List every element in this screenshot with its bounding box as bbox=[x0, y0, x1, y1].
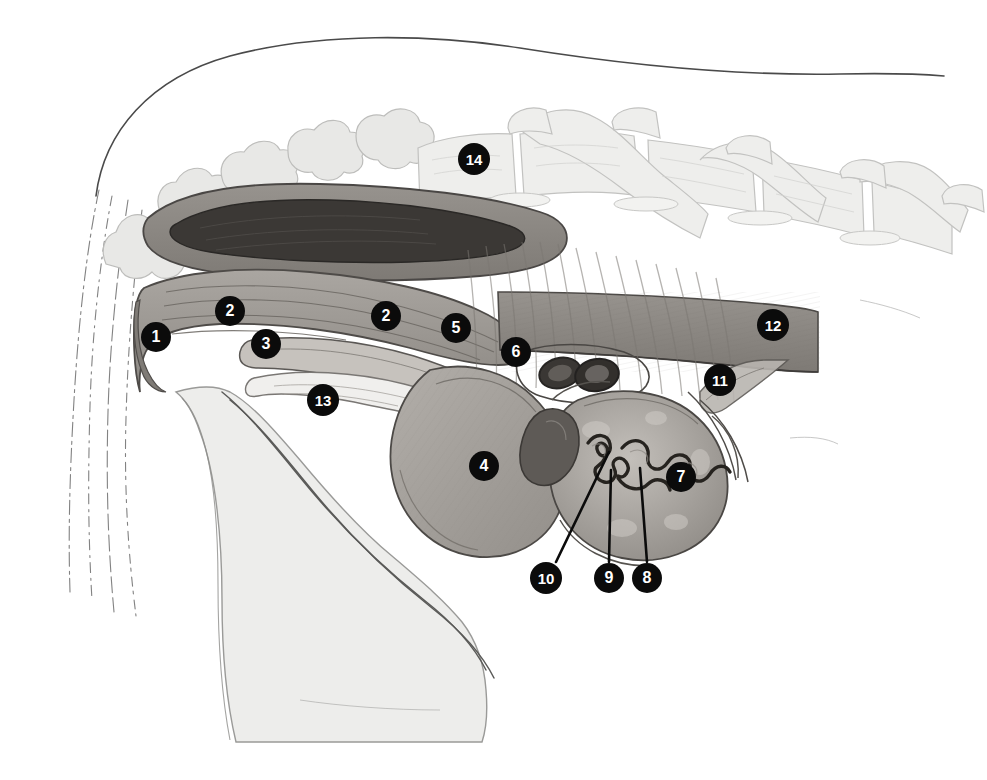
diagram-canvas: 12325613471112141098 bbox=[0, 0, 987, 780]
marker-10[interactable]: 10 bbox=[530, 562, 562, 594]
marker-14[interactable]: 14 bbox=[458, 143, 490, 175]
marker-13[interactable]: 13 bbox=[307, 384, 339, 416]
marker-3[interactable]: 3 bbox=[251, 329, 281, 359]
marker-12[interactable]: 12 bbox=[757, 309, 789, 341]
marker-9[interactable]: 9 bbox=[594, 563, 624, 593]
marker-7[interactable]: 7 bbox=[666, 462, 696, 492]
marker-2a[interactable]: 2 bbox=[215, 296, 245, 326]
marker-6[interactable]: 6 bbox=[501, 337, 531, 367]
marker-11[interactable]: 11 bbox=[704, 364, 736, 396]
anatomical-illustration bbox=[0, 0, 987, 780]
marker-2b[interactable]: 2 bbox=[371, 301, 401, 331]
marker-8[interactable]: 8 bbox=[632, 563, 662, 593]
marker-5[interactable]: 5 bbox=[441, 313, 471, 343]
marker-1[interactable]: 1 bbox=[141, 322, 171, 352]
marker-4[interactable]: 4 bbox=[469, 451, 499, 481]
